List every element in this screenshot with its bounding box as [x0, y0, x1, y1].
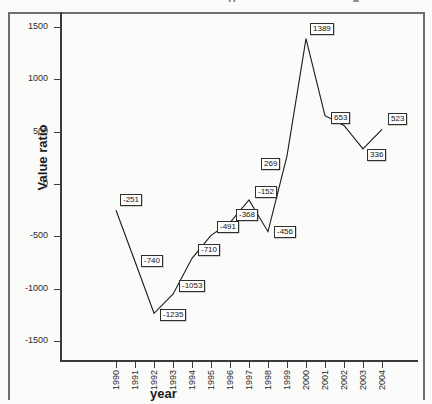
x-tick [173, 362, 174, 368]
data-point-label: -1053 [179, 280, 205, 292]
x-tick-label: 1994 [187, 370, 197, 390]
data-point-label: 523 [388, 113, 407, 125]
x-axis-line [60, 360, 418, 362]
x-tick [363, 362, 364, 368]
x-tick-label: 1991 [130, 370, 140, 390]
x-tick [116, 362, 117, 368]
title-remnant-right: ● [352, 0, 360, 2]
y-tick-label: -1500 [2, 335, 48, 345]
y-tick-label: -500 [2, 230, 48, 240]
title-remnant-left: μ [228, 0, 236, 2]
y-tick [54, 341, 60, 342]
x-tick-label: 1992 [149, 370, 159, 390]
x-tick [382, 362, 383, 368]
data-point-label: -491 [217, 221, 239, 233]
data-point-label: -251 [120, 194, 142, 206]
y-tick-label: 1000 [2, 73, 48, 83]
y-tick-label: 500 [2, 126, 48, 136]
y-tick-label: -1000 [2, 283, 48, 293]
x-tick [344, 362, 345, 368]
x-tick [287, 362, 288, 368]
y-axis-title: Value ratio [35, 98, 50, 218]
data-point-label: -368 [236, 209, 258, 221]
x-tick [135, 362, 136, 368]
x-tick [192, 362, 193, 368]
y-tick [54, 27, 60, 28]
y-tick [54, 236, 60, 237]
y-axis-line [60, 12, 62, 362]
x-tick-label: 2002 [339, 370, 349, 390]
data-point-label: 653 [331, 112, 350, 124]
x-tick [306, 362, 307, 368]
y-tick-label: 0 [2, 178, 48, 188]
data-point-label: -1235 [160, 309, 186, 321]
y-tick [54, 289, 60, 290]
x-tick-label: 1998 [263, 370, 273, 390]
data-point-label: -710 [198, 244, 220, 256]
figure-page: μ ● Value ratio year 150010005000-500-10… [0, 0, 432, 404]
y-tick [54, 184, 60, 185]
y-tick [54, 79, 60, 80]
x-tick [249, 362, 250, 368]
y-tick-label: 1500 [2, 21, 48, 31]
data-point-label: 336 [367, 149, 386, 161]
data-point-label: -456 [274, 226, 296, 238]
x-tick [154, 362, 155, 368]
data-point-label: 269 [261, 158, 280, 170]
x-tick-label: 1990 [111, 370, 121, 390]
data-point-label: -152 [255, 186, 277, 198]
data-point-label: -740 [141, 255, 163, 267]
x-tick-label: 2000 [301, 370, 311, 390]
x-tick [230, 362, 231, 368]
x-tick [268, 362, 269, 368]
y-tick [54, 132, 60, 133]
x-tick-label: 2001 [320, 370, 330, 390]
figure-frame [8, 12, 425, 400]
data-point-label: 1389 [310, 23, 334, 35]
x-tick-label: 2004 [377, 370, 387, 390]
x-tick-label: 1997 [244, 370, 254, 390]
x-tick-label: 1995 [206, 370, 216, 390]
x-tick-label: 1993 [168, 370, 178, 390]
x-tick-label: 1999 [282, 370, 292, 390]
x-tick-label: 1996 [225, 370, 235, 390]
x-tick-label: 2003 [358, 370, 368, 390]
x-tick [211, 362, 212, 368]
x-tick [325, 362, 326, 368]
